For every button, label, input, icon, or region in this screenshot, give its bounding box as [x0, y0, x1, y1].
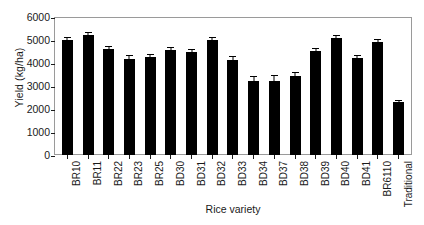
- error-bar: [357, 55, 358, 62]
- bar: [269, 81, 280, 155]
- bar: [290, 76, 301, 155]
- error-bar: [212, 37, 213, 43]
- x-tick-mark: [377, 155, 378, 159]
- y-tick-label: 1000: [27, 127, 50, 138]
- error-bar: [295, 72, 296, 80]
- x-tick-mark: [67, 155, 68, 159]
- y-axis-tick-labels: 0100020003000400050006000: [20, 17, 50, 155]
- x-tick-slot: [223, 155, 244, 160]
- x-tick-slot: [326, 155, 347, 160]
- x-tick-mark: [357, 155, 358, 159]
- bar-slot: [181, 17, 202, 155]
- x-label-slot: BD39: [305, 161, 326, 205]
- x-tick-slot: [202, 155, 223, 160]
- error-bar: [336, 35, 337, 41]
- x-tick-mark: [295, 155, 296, 159]
- error-bar: [191, 49, 192, 54]
- error-bar: [108, 46, 109, 52]
- x-label-slot: BD31: [181, 161, 202, 205]
- bar: [352, 58, 363, 155]
- x-tick-mark: [336, 155, 337, 159]
- x-tick-slot: [181, 155, 202, 160]
- bar-slot: [388, 17, 409, 155]
- bar: [186, 52, 197, 155]
- error-bar: [88, 32, 89, 38]
- x-tick-mark: [274, 155, 275, 159]
- x-tick-slot: [140, 155, 161, 160]
- y-tick-label: 2000: [27, 104, 50, 115]
- x-tick-mark: [253, 155, 254, 159]
- bar-slot: [368, 17, 389, 155]
- error-bar: [377, 39, 378, 46]
- x-label-slot: BD38: [285, 161, 306, 205]
- bar: [103, 49, 114, 155]
- x-tick-mark: [398, 155, 399, 159]
- x-label-slot: BD33: [223, 161, 244, 205]
- error-bar: [315, 48, 316, 54]
- bars-container: [54, 17, 412, 155]
- x-tick-slot: [264, 155, 285, 160]
- x-label-slot: BR25: [140, 161, 161, 205]
- x-tick-mark: [315, 155, 316, 159]
- x-axis-tick-labels: BR10BR11BR22BR23BR25BD30BD31BD32BD33BD34…: [54, 161, 412, 205]
- bar: [248, 81, 259, 155]
- x-label-slot: BR10: [57, 161, 78, 205]
- x-label-slot: BD32: [202, 161, 223, 205]
- x-tick-slot: [57, 155, 78, 160]
- x-tick-mark: [232, 155, 233, 159]
- x-tick-slot: [388, 155, 409, 160]
- x-tick-mark: [150, 155, 151, 159]
- bar-slot: [78, 17, 99, 155]
- bar-slot: [140, 17, 161, 155]
- x-label-slot: Traditional: [388, 161, 409, 205]
- x-axis-tick-marks: [54, 155, 412, 160]
- y-tick-label: 6000: [27, 12, 50, 23]
- bar-slot: [243, 17, 264, 155]
- x-label-slot: BR22: [98, 161, 119, 205]
- bar: [331, 38, 342, 155]
- bar-slot: [326, 17, 347, 155]
- bar-slot: [223, 17, 244, 155]
- bar-slot: [57, 17, 78, 155]
- bar-slot: [305, 17, 326, 155]
- bar-slot: [202, 17, 223, 155]
- x-tick-slot: [305, 155, 326, 160]
- x-tick-label: Traditional: [404, 161, 414, 207]
- bar: [393, 102, 404, 155]
- bar: [124, 59, 135, 155]
- x-tick-mark: [108, 155, 109, 159]
- bar-slot: [161, 17, 182, 155]
- x-label-slot: BR11: [78, 161, 99, 205]
- x-label-slot: BD41: [347, 161, 368, 205]
- error-bar: [67, 37, 68, 42]
- bar: [227, 60, 238, 155]
- bar: [207, 40, 218, 155]
- bar: [372, 42, 383, 155]
- x-label-slot: BD40: [326, 161, 347, 205]
- error-bar: [129, 55, 130, 62]
- x-tick-mark: [212, 155, 213, 159]
- x-tick-slot: [98, 155, 119, 160]
- x-tick-slot: [78, 155, 99, 160]
- y-tick-label: 3000: [27, 81, 50, 92]
- x-tick-slot: [119, 155, 140, 160]
- x-tick-mark: [191, 155, 192, 159]
- x-tick-mark: [88, 155, 89, 159]
- x-tick-slot: [243, 155, 264, 160]
- error-bar: [274, 75, 275, 86]
- x-tick-slot: [368, 155, 389, 160]
- bar: [310, 51, 321, 155]
- bar-slot: [264, 17, 285, 155]
- bar: [83, 35, 94, 155]
- y-tick-label: 0: [44, 150, 50, 161]
- error-bar: [150, 54, 151, 59]
- error-bar: [170, 47, 171, 53]
- x-label-slot: BD37: [264, 161, 285, 205]
- x-label-slot: BR23: [119, 161, 140, 205]
- bar-slot: [347, 17, 368, 155]
- x-tick-slot: [347, 155, 368, 160]
- x-tick-mark: [170, 155, 171, 159]
- x-tick-slot: [285, 155, 306, 160]
- y-tick-label: 4000: [27, 58, 50, 69]
- x-label-slot: BD34: [243, 161, 264, 205]
